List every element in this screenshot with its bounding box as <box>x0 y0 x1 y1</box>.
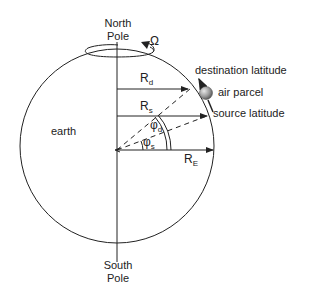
r-s-label: Rs <box>140 100 153 114</box>
r-e-label: RE <box>184 153 198 167</box>
source-latitude-label: source latitude <box>213 107 285 120</box>
rotation-arrow-icon <box>85 45 153 57</box>
destination-latitude-label: destination latitude <box>195 64 287 77</box>
earth-label: earth <box>51 125 76 138</box>
r-d-label: Rd <box>140 72 153 86</box>
omega-label: Ω <box>150 35 159 48</box>
phi-s-label: φs <box>143 136 155 150</box>
air-parcel-label: air parcel <box>218 86 263 99</box>
phi-d-label: φd <box>150 119 162 133</box>
north-pole-label: North Pole <box>98 17 138 43</box>
south-pole-label: South Pole <box>98 259 138 285</box>
air-parcel-ball <box>200 87 213 100</box>
